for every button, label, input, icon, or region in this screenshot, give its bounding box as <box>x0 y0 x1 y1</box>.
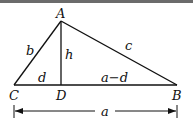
vertex-label-d: D <box>55 88 67 103</box>
triangle-diagram: A C D B b c h d a−d a <box>0 0 193 129</box>
vertex-label-c: C <box>9 88 19 103</box>
side-label-h: h <box>65 47 73 62</box>
side-label-b: b <box>26 43 34 58</box>
side-label-c: c <box>125 38 133 53</box>
segment-label-d: d <box>38 70 46 85</box>
vertex-label-b: B <box>171 88 182 103</box>
segment-label-a-minus-d: a−d <box>101 70 128 85</box>
arrow-left-icon <box>15 108 23 114</box>
vertex-label-a: A <box>55 6 65 21</box>
arrow-right-icon <box>168 108 176 114</box>
dimension-label-a: a <box>101 104 109 119</box>
